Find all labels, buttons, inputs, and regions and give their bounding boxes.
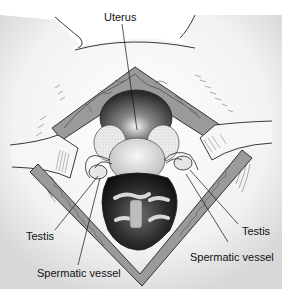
surgical-illustration [0, 0, 282, 289]
label-uterus: Uterus [104, 12, 136, 23]
label-spermatic-vessel-left: Spermatic vessel [37, 268, 121, 279]
label-testis-right: Testis [242, 226, 270, 237]
label-testis-left: Testis [26, 231, 54, 242]
label-spermatic-vessel-right: Spermatic vessel [190, 252, 274, 263]
